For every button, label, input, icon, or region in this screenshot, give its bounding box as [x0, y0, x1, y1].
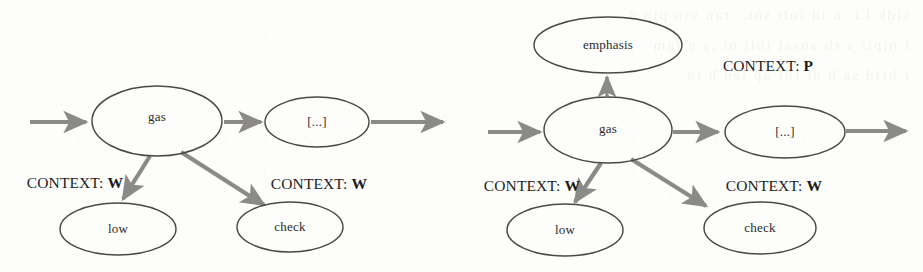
context-prefix: CONTEXT:: [726, 177, 803, 194]
context-prefix: CONTEXT:: [27, 174, 104, 191]
context-value: W: [352, 175, 368, 192]
node-label-low-left: low: [108, 221, 128, 237]
context-label-check-right: CONTEXT: W: [726, 177, 822, 195]
node-label-emphasis-right: emphasis: [583, 37, 633, 53]
context-value: W: [807, 177, 823, 194]
context-value: P: [804, 57, 814, 74]
context-label-low-right: CONTEXT: W: [484, 177, 580, 195]
right-graph: [488, 17, 906, 256]
node-label-ellipsis-left: [...]: [307, 114, 326, 130]
left-graph: [30, 86, 443, 255]
context-value: W: [565, 177, 581, 194]
figure-canvas: sidk Li :n id fuli sot. .ran vio pin dt …: [0, 0, 923, 272]
context-label-low-left: CONTEXT: W: [27, 174, 123, 192]
node-label-low-right: low: [555, 222, 575, 238]
node-label-check-left: check: [274, 219, 305, 235]
node-label-gas-right: gas: [599, 121, 617, 137]
context-label-emphasis-right: CONTEXT: P: [723, 57, 813, 75]
node-label-check-right: check: [744, 220, 775, 236]
context-label-check-left: CONTEXT: W: [271, 175, 367, 193]
context-value: W: [108, 174, 124, 191]
context-prefix: CONTEXT:: [271, 175, 348, 192]
edge-gas-to-check-left: [181, 152, 264, 205]
node-label-gas-left: gas: [148, 109, 166, 125]
edge-gas-to-check-right: [631, 159, 706, 206]
context-prefix: CONTEXT:: [484, 177, 561, 194]
node-label-ellipsis-right: [...]: [775, 124, 794, 140]
edge-gas-to-low-left: [123, 156, 150, 199]
context-prefix: CONTEXT:: [723, 57, 800, 74]
